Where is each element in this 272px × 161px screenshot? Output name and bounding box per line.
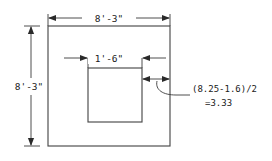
edge-note-line-1: (8.25-1.6)/2 (192, 84, 257, 94)
left-dimension-arrow-top (28, 26, 34, 34)
top-dimension-arrow-left (48, 15, 56, 21)
edge-gap-arrow-right (162, 76, 170, 82)
inner-dimension-arrow-left (80, 55, 88, 61)
note-leader-line (157, 81, 190, 95)
dimension-drawing-svg: 8'-3" 8'-3" 1'-6" (8.25-1.6) (0, 0, 272, 161)
inner-dimension-arrow-right (142, 55, 150, 61)
inner-square (88, 68, 142, 122)
top-dimension-arrow-right (162, 15, 170, 21)
left-dimension-label: 8'-3" (15, 81, 44, 92)
top-dimension-label: 8'-3" (95, 13, 124, 24)
inner-dimension-label: 1'-6" (95, 53, 124, 64)
edge-note-line-2: =3.33 (205, 98, 232, 108)
outer-square (48, 26, 170, 146)
left-dimension-arrow-bottom (28, 138, 34, 146)
edge-gap-arrow-left (142, 76, 150, 82)
technical-drawing-canvas: 8'-3" 8'-3" 1'-6" (8.25-1.6) (0, 0, 272, 161)
